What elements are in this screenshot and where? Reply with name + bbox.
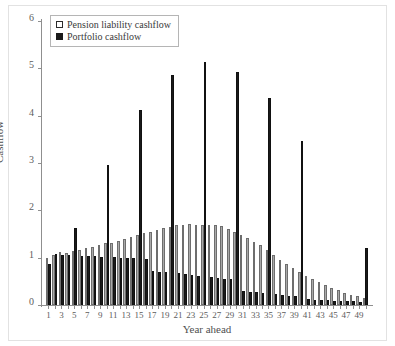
x-tick-mark xyxy=(307,305,308,309)
x-tick-mark xyxy=(48,305,49,309)
bar-portfolio xyxy=(126,258,129,305)
y-tick-label: 1 xyxy=(29,250,34,260)
x-tick-mark xyxy=(165,305,166,309)
bar-portfolio xyxy=(365,248,368,305)
y-tick-label: 0 xyxy=(29,297,34,307)
bar-portfolio xyxy=(346,301,349,305)
y-axis-label: Cashflow xyxy=(0,121,5,163)
x-tick-mark xyxy=(281,305,282,309)
legend: Pension liability cashflow Portfolio cas… xyxy=(50,15,179,47)
x-tick-mark xyxy=(301,305,302,309)
x-tick-mark xyxy=(243,305,244,309)
open-square-marker-icon xyxy=(56,21,63,28)
x-tick-label: 35 xyxy=(264,311,273,320)
x-tick-label: 13 xyxy=(122,311,131,320)
y-tick-mark xyxy=(38,210,42,211)
y-tick-mark xyxy=(38,163,42,164)
x-tick-label: 25 xyxy=(199,311,208,320)
y-tick-label: 6 xyxy=(29,13,34,23)
x-tick-mark xyxy=(288,305,289,309)
bar-portfolio xyxy=(268,98,271,305)
x-tick-mark xyxy=(314,305,315,309)
bar-portfolio xyxy=(94,256,97,305)
x-tick-label: 33 xyxy=(251,311,260,320)
y-tick-mark xyxy=(38,68,42,69)
bar-portfolio xyxy=(333,301,336,305)
legend-item-pension-liability: Pension liability cashflow xyxy=(56,19,171,31)
y-tick-label: 5 xyxy=(29,60,34,70)
x-tick-label: 43 xyxy=(316,311,325,320)
bar-portfolio xyxy=(132,258,135,305)
y-tick-label: 3 xyxy=(29,155,34,165)
bar-portfolio xyxy=(113,257,116,305)
bar-portfolio xyxy=(352,301,355,305)
bar-portfolio xyxy=(262,293,265,305)
x-tick-mark xyxy=(100,305,101,309)
bar-portfolio xyxy=(87,256,90,305)
x-tick-label: 5 xyxy=(72,311,77,320)
x-tick-label: 23 xyxy=(186,311,195,320)
bar-portfolio xyxy=(249,292,252,305)
x-tick-label: 15 xyxy=(135,311,144,320)
bar-portfolio xyxy=(48,264,51,305)
x-tick-label: 27 xyxy=(212,311,221,320)
x-tick-label: 37 xyxy=(277,311,286,320)
x-tick-mark xyxy=(171,305,172,309)
bar-portfolio xyxy=(120,258,123,305)
bar-portfolio xyxy=(327,300,330,305)
x-axis-line xyxy=(41,305,373,306)
y-tick-label: 4 xyxy=(29,108,34,118)
x-tick-mark xyxy=(191,305,192,309)
x-tick-mark xyxy=(113,305,114,309)
x-tick-mark xyxy=(55,305,56,309)
x-tick-label: 19 xyxy=(160,311,169,320)
x-tick-mark xyxy=(146,305,147,309)
x-tick-label: 7 xyxy=(85,311,90,320)
x-tick-label: 39 xyxy=(290,311,299,320)
x-axis-label: Year ahead xyxy=(42,323,372,335)
x-tick-mark xyxy=(327,305,328,309)
x-tick-mark xyxy=(197,305,198,309)
y-tick-label: 2 xyxy=(29,202,34,212)
x-tick-label: 21 xyxy=(173,311,182,320)
bar-portfolio xyxy=(223,279,226,306)
bar-portfolio xyxy=(139,110,142,305)
x-tick-label: 31 xyxy=(238,311,247,320)
bar-portfolio xyxy=(61,255,64,305)
x-tick-mark xyxy=(139,305,140,309)
bar-portfolio xyxy=(340,301,343,305)
bar-portfolio xyxy=(275,294,278,305)
bar-portfolio xyxy=(242,291,245,305)
bar-portfolio xyxy=(288,296,291,305)
x-tick-mark xyxy=(275,305,276,309)
bar-portfolio xyxy=(197,276,200,305)
legend-label-pension-liability: Pension liability cashflow xyxy=(67,19,171,31)
x-tick-mark xyxy=(320,305,321,309)
bar-portfolio xyxy=(301,141,304,305)
x-tick-label: 45 xyxy=(329,311,338,320)
x-tick-mark xyxy=(294,305,295,309)
x-tick-label: 29 xyxy=(225,311,234,320)
x-tick-label: 3 xyxy=(59,311,64,320)
cashflow-bar-chart: Cashflow Year ahead 0123456 135791113151… xyxy=(0,0,395,346)
x-tick-mark xyxy=(81,305,82,309)
bar-portfolio xyxy=(210,277,213,305)
x-tick-mark xyxy=(353,305,354,309)
x-tick-mark xyxy=(133,305,134,309)
bar-portfolio xyxy=(294,296,297,305)
bar-portfolio xyxy=(107,165,110,305)
x-tick-mark xyxy=(249,305,250,309)
legend-item-portfolio: Portfolio cashflow xyxy=(56,31,171,43)
y-tick-mark xyxy=(38,305,42,306)
bar-portfolio xyxy=(55,254,58,305)
x-tick-mark xyxy=(204,305,205,309)
x-tick-mark xyxy=(359,305,360,309)
x-tick-label: 47 xyxy=(342,311,351,320)
y-tick-mark xyxy=(38,116,42,117)
x-tick-mark xyxy=(158,305,159,309)
x-tick-mark xyxy=(223,305,224,309)
bar-portfolio xyxy=(158,272,161,305)
x-tick-mark xyxy=(152,305,153,309)
bar-portfolio xyxy=(178,273,181,305)
x-tick-mark xyxy=(256,305,257,309)
